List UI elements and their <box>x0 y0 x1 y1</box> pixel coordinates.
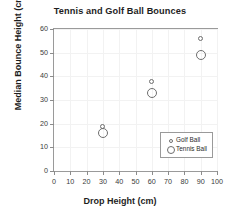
y-axis-tick-label: 40 <box>28 72 48 79</box>
x-axis-tick <box>103 171 104 175</box>
x-axis-tick <box>152 171 153 175</box>
data-point <box>196 50 206 60</box>
legend-item-label: Tennis Ball <box>176 146 207 152</box>
legend-marker-icon <box>165 146 176 154</box>
legend-item-label: Golf Ball <box>176 137 200 143</box>
legend-item[interactable]: Golf Ball <box>165 136 207 145</box>
y-axis-tick-label: 50 <box>28 49 48 56</box>
x-axis-tick <box>201 171 202 175</box>
x-axis-tick <box>70 171 71 175</box>
gridline-vertical <box>217 29 218 171</box>
y-axis-tick-label: 0 <box>28 167 48 174</box>
y-axis-tick <box>50 53 54 54</box>
y-axis-tick <box>50 29 54 30</box>
x-axis-tick <box>87 171 88 175</box>
data-point <box>147 88 157 98</box>
x-axis-tick <box>184 171 185 175</box>
y-axis-tick-label: 10 <box>28 143 48 150</box>
page-title: Tennis and Golf Ball Bounces <box>0 6 240 16</box>
legend[interactable]: Golf BallTennis Ball <box>160 132 213 158</box>
data-point <box>98 128 108 138</box>
legend-marker-icon <box>165 139 176 143</box>
chart-figure: Tennis and Golf Ball Bounces Median Boun… <box>0 0 240 215</box>
gridline-horizontal <box>54 124 217 125</box>
plot-area: 0102030405060 0102030405060708090100 Gol… <box>53 28 218 172</box>
x-axis-tick-label: 100 <box>207 178 227 185</box>
x-axis-tick <box>119 171 120 175</box>
y-axis-tick <box>50 147 54 148</box>
gridline-horizontal <box>54 53 217 54</box>
x-axis-tick <box>168 171 169 175</box>
y-axis-title: Median Bounce Height (cm) <box>13 0 23 131</box>
x-axis-tick <box>136 171 137 175</box>
x-axis-title: Drop Height (cm) <box>0 196 240 206</box>
y-axis-tick <box>50 100 54 101</box>
legend-item[interactable]: Tennis Ball <box>165 145 207 154</box>
y-axis-tick <box>50 76 54 77</box>
data-point <box>149 79 154 84</box>
gridline-horizontal <box>54 29 217 30</box>
gridline-horizontal <box>54 76 217 77</box>
gridline-horizontal <box>54 100 217 101</box>
y-axis-tick-label: 30 <box>28 96 48 103</box>
y-axis-tick-label: 20 <box>28 120 48 127</box>
x-axis-tick <box>217 171 218 175</box>
y-axis-tick <box>50 124 54 125</box>
y-axis-tick-label: 60 <box>28 25 48 32</box>
x-axis-tick <box>54 171 55 175</box>
